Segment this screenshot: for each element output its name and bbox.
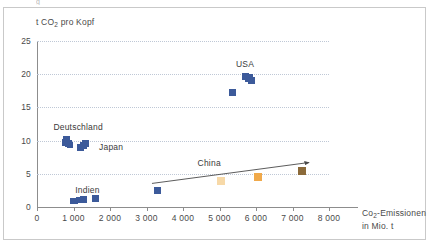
x-tick-mark bbox=[37, 207, 38, 211]
y-axis-title-rest: pro Kopf bbox=[58, 17, 94, 27]
data-point-marker bbox=[298, 167, 306, 175]
data-point-marker bbox=[154, 187, 161, 194]
series-annotation-japan: Japan bbox=[99, 142, 123, 152]
y-tick-label: 10 bbox=[5, 136, 31, 146]
gridline bbox=[37, 74, 329, 75]
x-tick-mark bbox=[183, 207, 184, 211]
x-tick-label: 1 000 bbox=[54, 213, 94, 223]
y-axis-title-main: t CO bbox=[36, 17, 54, 27]
x-axis-title: Co2-Emissionen in Mio. t bbox=[362, 208, 426, 232]
gridline bbox=[37, 107, 329, 108]
x-tick-mark bbox=[147, 207, 148, 211]
x-tick-mark bbox=[256, 207, 257, 211]
data-point-marker bbox=[229, 89, 236, 96]
x-tick-label: 3 000 bbox=[127, 213, 167, 223]
x-tick-mark bbox=[110, 207, 111, 211]
x-tick-label: 0 bbox=[17, 213, 57, 223]
data-point-marker bbox=[67, 142, 73, 148]
x-tick-label: 5 000 bbox=[200, 213, 240, 223]
y-tick-label: 0 bbox=[5, 202, 31, 212]
series-annotation-indien: Indien bbox=[75, 185, 99, 195]
y-tick-label: 20 bbox=[5, 69, 31, 79]
data-point-marker bbox=[217, 177, 225, 185]
series-annotation-china: China bbox=[198, 158, 221, 168]
x-tick-label: 7 000 bbox=[273, 213, 313, 223]
figure-root: g t CO2 pro Kopf Co2-Emissionen in Mio. … bbox=[0, 0, 430, 242]
x-tick-mark bbox=[74, 207, 75, 211]
y-tick-label: 15 bbox=[5, 102, 31, 112]
x-tick-label: 8 000 bbox=[309, 213, 349, 223]
x-tick-label: 2 000 bbox=[90, 213, 130, 223]
x-axis-title-rest: -Emissionen bbox=[377, 208, 426, 218]
data-point-marker bbox=[80, 196, 87, 203]
x-axis-line bbox=[37, 207, 358, 208]
x-axis-title-main: Co bbox=[362, 208, 373, 218]
x-axis-title-line2: in Mio. t bbox=[362, 221, 394, 231]
y-axis-title: t CO2 pro Kopf bbox=[36, 17, 94, 28]
x-tick-mark bbox=[329, 207, 330, 211]
data-point-marker bbox=[248, 77, 255, 84]
clipped-top-text: g bbox=[36, 0, 56, 5]
gridline bbox=[37, 174, 329, 175]
data-point-marker bbox=[82, 140, 89, 147]
x-tick-mark bbox=[220, 207, 221, 211]
y-axis-line bbox=[37, 41, 38, 208]
y-tick-label: 5 bbox=[5, 169, 31, 179]
data-point-marker bbox=[254, 173, 262, 181]
x-tick-mark bbox=[293, 207, 294, 211]
data-point-marker bbox=[92, 195, 99, 202]
series-annotation-usa: USA bbox=[236, 59, 254, 69]
x-tick-label: 6 000 bbox=[236, 213, 276, 223]
x-tick-label: 4 000 bbox=[163, 213, 203, 223]
y-tick-label: 25 bbox=[5, 36, 31, 46]
series-annotation-deutschland: Deutschland bbox=[53, 122, 102, 132]
gridline bbox=[37, 41, 329, 42]
